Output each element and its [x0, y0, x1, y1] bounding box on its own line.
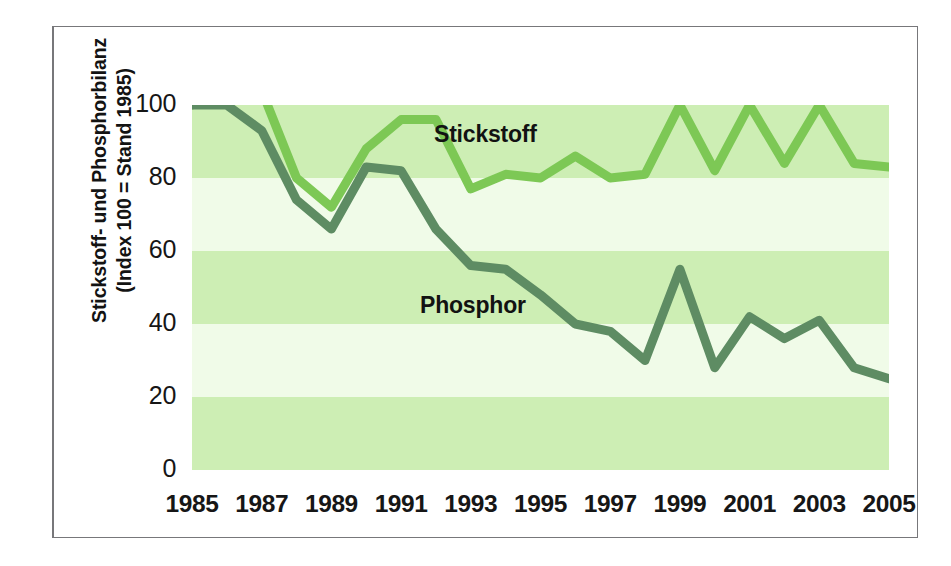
- y-tick-label: 60: [104, 235, 176, 264]
- y-tick-label: 40: [104, 308, 176, 337]
- series-label-stickstoff: Stickstoff: [434, 121, 537, 148]
- y-tick-label: 100: [104, 89, 176, 118]
- series-label-phosphor: Phosphor: [420, 292, 526, 319]
- y-tick-label: 80: [104, 162, 176, 191]
- y-tick-label: 0: [104, 454, 176, 483]
- y-tick-label: 20: [104, 381, 176, 410]
- y-axis-line: [52, 26, 54, 538]
- series-lines: [192, 105, 889, 470]
- chart-page: Stickstoff- und Phosphorbilanz (Index 10…: [0, 0, 951, 566]
- line-phosphor: [192, 105, 889, 379]
- x-tick-label: 2005: [839, 490, 939, 518]
- plot-area: Stickstoff Phosphor: [192, 105, 889, 470]
